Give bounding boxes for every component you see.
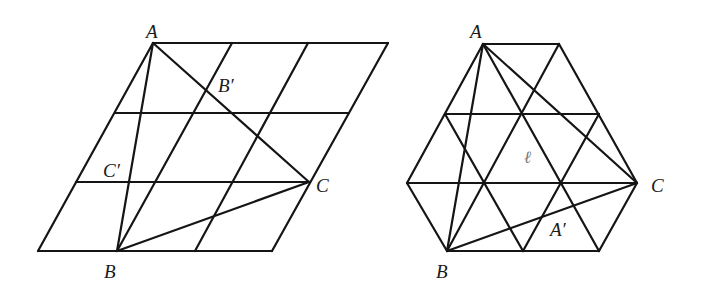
vertex-label: C — [316, 175, 329, 196]
grid-line — [272, 43, 388, 251]
vertex-label: B′ — [218, 75, 235, 96]
vertex-label: C′ — [103, 160, 121, 181]
parallelogram-grid — [38, 43, 388, 251]
vertex-label: C — [651, 175, 664, 196]
grid-line — [599, 183, 637, 251]
parallelogram-figure: AB′C′CB — [38, 21, 388, 282]
triangle-side — [117, 182, 309, 251]
geometry-diagram: AB′C′CB AℓCA′B — [0, 0, 701, 295]
vertex-label: A — [468, 21, 482, 42]
grid-line — [195, 43, 308, 251]
grid-line — [407, 183, 447, 251]
hexagon-figure: AℓCA′B — [407, 21, 664, 282]
vertex-label: ℓ — [524, 148, 531, 167]
triangle-side — [447, 183, 637, 251]
vertex-label: A′ — [548, 219, 567, 240]
vertex-label: B — [104, 261, 116, 282]
vertex-label: A — [144, 21, 158, 42]
hexagon-triangular-grid — [407, 44, 637, 251]
vertex-label: B — [436, 261, 448, 282]
